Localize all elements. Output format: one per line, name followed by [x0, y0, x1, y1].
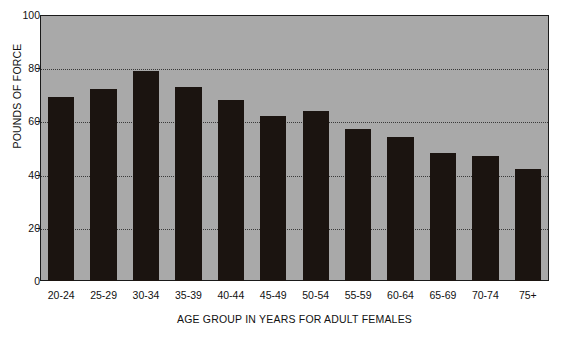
bar — [515, 169, 541, 281]
y-tick-label: 20 — [6, 222, 40, 234]
bar — [303, 111, 329, 281]
bar-series — [40, 15, 549, 281]
x-tick-label: 45-49 — [260, 289, 287, 301]
x-tick-label: 55-59 — [345, 289, 372, 301]
y-tick-label: 0 — [6, 275, 40, 287]
bar — [90, 89, 116, 281]
bar — [472, 156, 498, 281]
x-tick-label: 25-29 — [90, 289, 117, 301]
x-tick-label: 60-64 — [387, 289, 414, 301]
bar — [430, 153, 456, 281]
x-axis-title: AGE GROUP IN YEARS FOR ADULT FEMALES — [40, 313, 549, 325]
x-tick-label: 40-44 — [217, 289, 244, 301]
x-tick-label: 75+ — [519, 289, 537, 301]
y-tick-label: 60 — [6, 115, 40, 127]
bar — [133, 71, 159, 281]
y-tick-label: 100 — [6, 9, 40, 21]
x-tick-label: 50-54 — [302, 289, 329, 301]
bar — [175, 87, 201, 281]
x-axis-ticks: 20-2425-2930-3435-3940-4445-4950-5455-59… — [40, 289, 549, 305]
y-tick-label: 80 — [6, 62, 40, 74]
bar — [345, 129, 371, 281]
x-tick-label: 65-69 — [430, 289, 457, 301]
bar — [387, 137, 413, 281]
y-tick-label: 40 — [6, 169, 40, 181]
y-axis-ticks: 020406080100 — [0, 0, 40, 339]
bar — [48, 97, 74, 281]
x-tick-label: 35-39 — [175, 289, 202, 301]
bar — [260, 116, 286, 281]
bar-chart: POUNDS OF FORCE 020406080100 20-2425-293… — [0, 0, 561, 339]
bar — [218, 100, 244, 281]
x-tick-label: 20-24 — [48, 289, 75, 301]
x-tick-label: 70-74 — [472, 289, 499, 301]
x-tick-label: 30-34 — [133, 289, 160, 301]
